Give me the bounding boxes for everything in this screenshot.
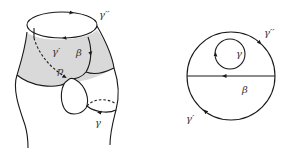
label-gamma-left: γ [95,117,101,128]
label-gamma-prime-right: γ′ [186,113,195,124]
label-beta-left: β [75,47,82,58]
curve-gamma-solid [87,106,116,112]
curve-gamma-dashed [87,100,116,106]
label-beta-right: β [241,84,248,95]
label-gamma-prime-left: γ′ [52,46,61,57]
handle-loop [61,79,87,115]
label-gamma-double-prime-right: γ′′ [264,27,275,38]
curve-gamma-double-prime [27,12,97,38]
left-surface-figure: γ′′ γ′ β p γ [15,9,118,148]
diagram-canvas: γ′′ γ′ β p γ γ′′ γ β γ′ [0,0,291,152]
label-gamma-double-prime-left: γ′′ [99,9,110,20]
right-disk-figure: γ′′ γ β γ′ [186,27,275,124]
label-p: p [57,65,64,76]
label-gamma-right: γ [236,48,242,59]
